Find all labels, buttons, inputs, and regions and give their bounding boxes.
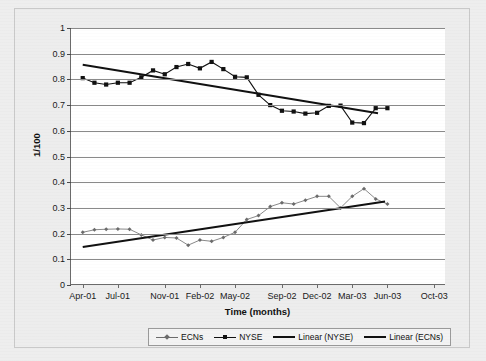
data-point-marker [116,227,120,231]
data-point-marker [104,227,108,231]
series-line-ecns [83,189,388,246]
y-axis-tick-mark [67,285,71,286]
gridline [71,157,445,158]
legend-swatch-icon [364,333,386,341]
legend-label: ECNs [181,332,203,342]
y-axis-tick-label: 0.7 [52,100,65,110]
x-axis-tick-mark [317,284,318,288]
x-axis-tick-label: Oct-03 [421,291,448,301]
data-point-marker [210,60,214,64]
x-axis-tick-mark [282,284,283,288]
data-point-marker [92,81,96,85]
legend-label: Linear (NYSE) [298,332,353,342]
x-axis-tick-label: Jul-01 [106,291,131,301]
gridline [71,28,445,29]
data-point-marker [292,109,296,113]
x-axis-tick-mark [165,284,166,288]
y-axis-title: 1/100 [31,133,42,157]
chart-figure: 1/100 00.10.20.30.40.50.60.70.80.91 Apr-… [0,0,486,361]
gridline [71,234,445,235]
data-point-marker [350,120,354,124]
legend-swatch-icon [156,333,178,341]
y-axis-tick-label: 0.5 [52,152,65,162]
x-axis-tick-label: Feb-02 [186,291,215,301]
gridline [71,131,445,132]
x-axis-tick-label: Mar-03 [338,291,367,301]
x-axis-tick-mark [434,284,435,288]
x-axis-tick-label: Sep-02 [267,291,296,301]
data-point-marker [104,82,108,86]
data-point-marker [362,121,366,125]
gridline [71,79,445,80]
x-axis-tick-mark [118,284,119,288]
data-point-marker [210,239,214,243]
series-line-nyse [83,62,388,123]
chart-frame: 1/100 00.10.20.30.40.50.60.70.80.91 Apr-… [14,8,470,348]
legend-item: ECNs [156,332,203,342]
data-point-marker [292,202,296,206]
data-point-marker [128,227,132,231]
x-axis-tick-label: Apr-01 [69,291,96,301]
y-axis-tick-label: 0.3 [52,203,65,213]
data-point-marker [163,235,167,239]
y-axis-tick-label: 0.2 [52,229,65,239]
x-axis-tick-label: Dec-02 [303,291,332,301]
data-point-marker [221,235,225,239]
y-axis-tick-label: 0.9 [52,49,65,59]
data-point-marker [198,66,202,70]
data-point-marker [374,106,378,110]
y-axis-tick-mark [67,157,71,158]
plot-area: 00.10.20.30.40.50.60.70.80.91 Apr-01Jul-… [70,28,445,285]
y-axis-tick-mark [67,79,71,80]
y-axis-tick-mark [67,131,71,132]
data-point-marker [127,81,131,85]
legend-label: NYSE [239,332,262,342]
data-point-marker [92,228,96,232]
x-axis-tick-mark [387,284,388,288]
x-axis-tick-label: May-02 [220,291,250,301]
gridline [71,105,445,106]
data-point-marker [151,238,155,242]
data-point-marker [385,106,389,110]
data-point-marker [303,198,307,202]
x-axis-tick-label: Jun-03 [374,291,402,301]
data-point-marker [116,81,120,85]
data-point-marker [163,72,167,76]
y-axis-tick-mark [67,54,71,55]
gridline [71,259,445,260]
y-axis-tick-mark [67,182,71,183]
y-axis-tick-label: 0.1 [52,254,65,264]
y-axis-tick-label: 0.6 [52,126,65,136]
data-point-marker [303,111,307,115]
x-axis-tick-mark [352,284,353,288]
data-point-marker [151,68,155,72]
data-point-marker [198,238,202,242]
x-axis-tick-mark [200,284,201,288]
x-axis-tick-mark [83,284,84,288]
x-axis-tick-mark [235,284,236,288]
x-axis-title: Time (months) [70,306,445,317]
data-point-marker [280,109,284,113]
y-axis-tick-mark [67,259,71,260]
legend-item: Linear (NYSE) [273,332,353,342]
gridline [71,208,445,209]
y-axis-tick-mark [67,105,71,106]
legend-label: Linear (ECNs) [389,332,443,342]
y-axis-tick-label: 0.4 [52,177,65,187]
chart-legend: ECNsNYSELinear (NYSE)Linear (ECNs) [148,328,451,346]
legend-swatch-icon [214,333,236,341]
data-point-marker [186,62,190,66]
legend-item: Linear (ECNs) [364,332,443,342]
data-point-marker [315,111,319,115]
y-axis-tick-mark [67,208,71,209]
data-point-marker [174,65,178,69]
data-point-marker [233,75,237,79]
y-axis-tick-mark [67,28,71,29]
data-point-marker [186,243,190,247]
data-point-marker [280,201,284,205]
data-point-marker [385,202,389,206]
y-axis-tick-mark [67,234,71,235]
data-point-marker [221,67,225,71]
legend-swatch-icon [273,333,295,341]
data-point-marker [174,236,178,240]
